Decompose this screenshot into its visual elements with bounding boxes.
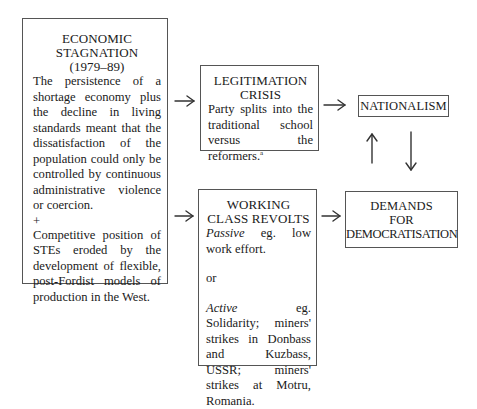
- nationalism-title: NATIONALISM: [359, 99, 448, 113]
- title-line: FOR: [346, 213, 457, 227]
- economic-stagnation-text: The persistence of a shortage economy pl…: [33, 74, 161, 214]
- demands-title: DEMANDS FOR DEMOCRATISATION: [346, 199, 457, 241]
- demands-for-democratisation-box: DEMANDS FOR DEMOCRATISATION: [345, 191, 458, 248]
- arrow-up-icon: [367, 134, 377, 163]
- working-class-revolts-title: WORKING CLASS REVOLTS: [206, 198, 311, 226]
- active-revolt-text: Active eg. Solidarity; miners' strikes i…: [206, 301, 311, 409]
- legitimation-crisis-text: Party splits into the traditional school…: [208, 102, 313, 164]
- nationalism-box: NATIONALISM: [358, 95, 449, 117]
- passive-revolt-text: Passive eg. low work effort.: [206, 226, 311, 257]
- title-line: DEMOCRATISATION: [346, 227, 457, 241]
- competitive-position-text: Competitive position of STEs eroded by t…: [33, 228, 161, 306]
- or-separator: or: [206, 271, 311, 287]
- title-line: CRISIS: [208, 88, 313, 102]
- arrow-right-icon: [175, 96, 194, 106]
- arrow-down-icon: [406, 132, 416, 170]
- arrow-right-icon: [322, 211, 340, 221]
- title-line: WORKING: [206, 198, 311, 212]
- title-line: ECONOMIC: [33, 32, 161, 46]
- economic-stagnation-title: ECONOMIC STAGNATION (1979–89): [33, 32, 161, 74]
- legitimation-crisis-box: LEGITIMATION CRISIS Party splits into th…: [200, 65, 319, 151]
- plus-sign: +: [33, 214, 161, 228]
- title-date-range: (1979–89): [33, 60, 161, 74]
- active-description: eg. Solidarity; miners' strikes in Donba…: [206, 301, 311, 408]
- arrow-right-icon: [175, 211, 193, 221]
- working-class-revolts-box: WORKING CLASS REVOLTS Passive eg. low wo…: [198, 189, 317, 366]
- title-line: STAGNATION: [33, 46, 161, 60]
- title-line: CLASS REVOLTS: [206, 212, 311, 226]
- active-label: Active: [206, 301, 237, 315]
- footnote-marker: a: [260, 148, 263, 156]
- title-line: LEGITIMATION: [208, 74, 313, 88]
- legitimation-crisis-title: LEGITIMATION CRISIS: [208, 74, 313, 102]
- title-line: DEMANDS: [346, 199, 457, 213]
- economic-stagnation-box: ECONOMIC STAGNATION (1979–89) The persis…: [22, 18, 168, 284]
- passive-label: Passive: [206, 226, 244, 240]
- arrow-right-icon: [324, 100, 345, 110]
